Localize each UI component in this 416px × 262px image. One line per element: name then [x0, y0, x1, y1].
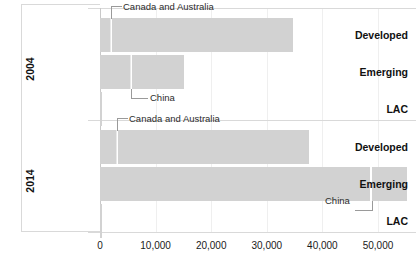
x-tick-label-20000: 20,000: [196, 240, 227, 251]
bar-2014-developed-canada-australia: [100, 130, 117, 164]
category-label-developed-2004: Developed: [355, 29, 408, 41]
leader-line-canada-australia-2004: [111, 6, 122, 19]
category-label-lac-2014: LAC: [386, 215, 408, 227]
category-label-developed-2014: Developed: [355, 141, 408, 153]
group-label-2004: 2004: [24, 49, 36, 89]
bar-2014-lac: [100, 204, 102, 238]
x-tick-label-10000: 10,000: [140, 240, 171, 251]
annotation-canada-australia-2014: Canada and Australia: [129, 113, 220, 124]
annotation-canada-australia-2004: Canada and Australia: [123, 1, 214, 12]
leader-line-china-2014: [355, 201, 373, 211]
category-label-lac-2004: LAC: [386, 103, 408, 115]
leader-line-china-2004: [131, 89, 148, 99]
x-tick-label-50000: 50,000: [363, 240, 394, 251]
x-tick-label-30000: 30,000: [252, 240, 283, 251]
category-label-emerging-2014: Emerging: [360, 178, 408, 190]
annotation-china-2014: China: [325, 195, 350, 206]
category-label-emerging-2004: Emerging: [360, 66, 408, 78]
bar-2004-emerging-china: [100, 55, 131, 89]
bar-2014-developed-other: [118, 130, 309, 164]
bar-2004-emerging-other: [132, 55, 184, 89]
panel-bottom-border: [88, 232, 416, 233]
group-label-2014: 2014: [24, 161, 36, 201]
bar-2004-developed-other: [112, 18, 293, 52]
x-tick-label-0: 0: [97, 240, 103, 251]
horizontal-bar-chart: Canada and Australia China Canada and Au…: [0, 0, 416, 262]
annotation-china-2004: China: [150, 92, 175, 103]
leader-line-canada-australia-2014: [117, 118, 128, 131]
x-tick-label-40000: 40,000: [307, 240, 338, 251]
bar-2004-developed-canada-australia: [100, 18, 111, 52]
bar-2004-lac: [100, 92, 102, 126]
